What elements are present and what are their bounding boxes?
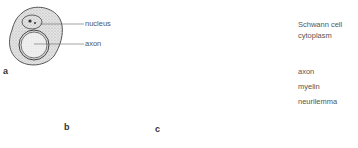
label-neurilemma: neurilemma	[298, 98, 337, 106]
panel-a-cell	[10, 7, 84, 65]
label-nucleus: nucleus	[85, 20, 111, 28]
axon-a	[21, 32, 47, 58]
label-cytoplasm: cytoplasm	[298, 32, 332, 40]
panel-label-c: c	[155, 124, 160, 134]
panel-label-a: a	[3, 66, 8, 76]
label-myelin: myelin	[298, 83, 320, 91]
nucleus-a	[22, 15, 42, 29]
label-axon-a: axon	[85, 40, 101, 48]
label-schwann-cell: Schwann cell	[298, 21, 342, 29]
label-axon-c: axon	[298, 68, 314, 76]
panel-label-b: b	[64, 122, 70, 132]
